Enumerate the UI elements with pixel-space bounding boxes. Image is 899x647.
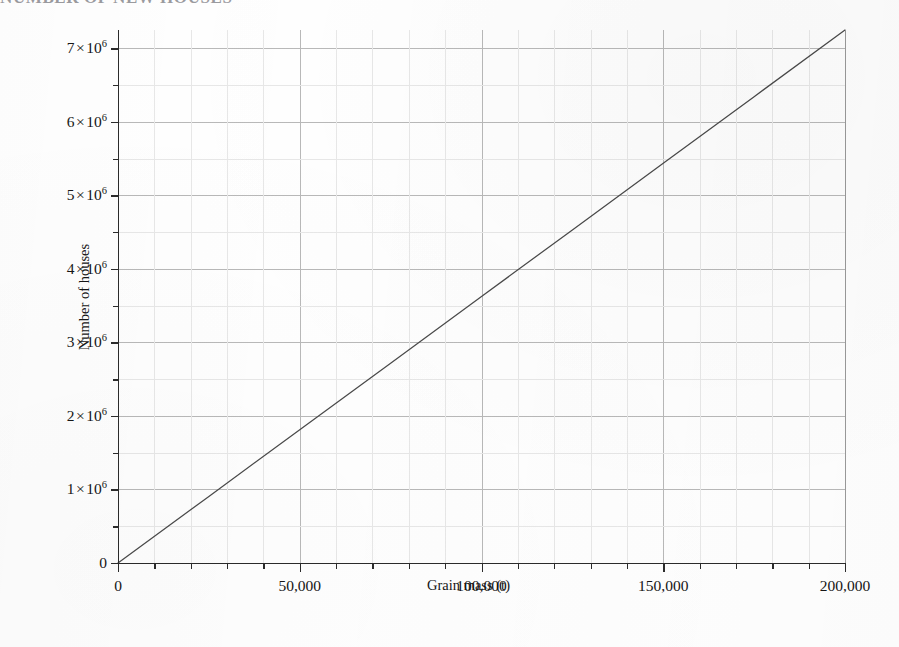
x-axis-tick xyxy=(482,563,483,572)
x-axis-minor-tick xyxy=(154,563,155,569)
y-axis-line xyxy=(118,30,119,563)
y-axis-tick xyxy=(111,122,119,123)
y-axis-tick-label: 6×106 xyxy=(67,113,107,131)
y-axis-minor-tick xyxy=(113,526,119,527)
chart-figure: NUMBER OF NEW HOUSES 01×1062×1063×1064×1… xyxy=(0,0,899,647)
x-axis-minor-tick xyxy=(736,563,737,569)
y-axis-minor-tick xyxy=(113,306,119,307)
x-axis-title-text: Grain mass (t) xyxy=(427,577,510,593)
y-axis-tick-label: 1×106 xyxy=(67,480,107,498)
y-axis-tick-label: 5×106 xyxy=(67,186,107,204)
y-axis-tick xyxy=(111,195,119,196)
x-axis-tick xyxy=(300,563,301,572)
y-axis-tick xyxy=(111,489,119,490)
x-axis-minor-tick xyxy=(263,563,264,569)
x-axis-title: Grain mass (t) xyxy=(0,577,899,594)
plot-area: 01×1062×1063×1064×1065×1066×1067×106 050… xyxy=(118,30,845,563)
x-axis-minor-tick xyxy=(336,563,337,569)
x-axis-tick xyxy=(845,563,846,572)
data-series-line xyxy=(118,30,845,563)
y-axis-tick xyxy=(111,416,119,417)
x-axis-minor-tick xyxy=(591,563,592,569)
x-axis-minor-tick xyxy=(445,563,446,569)
y-axis-tick-label: 7×106 xyxy=(67,39,107,57)
x-axis-minor-tick xyxy=(191,563,192,569)
x-axis-minor-tick xyxy=(700,563,701,569)
y-axis-tick xyxy=(111,269,119,270)
y-axis-minor-tick xyxy=(113,159,119,160)
x-axis-minor-tick xyxy=(809,563,810,569)
x-axis-tick xyxy=(118,563,119,572)
x-axis-minor-tick xyxy=(627,563,628,569)
y-axis-minor-tick xyxy=(113,85,119,86)
x-axis-minor-tick xyxy=(554,563,555,569)
y-axis-title: Number of houses xyxy=(76,243,93,349)
y-axis-minor-tick xyxy=(113,379,119,380)
page-heading: NUMBER OF NEW HOUSES xyxy=(0,0,420,8)
x-axis-minor-tick xyxy=(227,563,228,569)
x-axis-minor-tick xyxy=(772,563,773,569)
x-axis-tick xyxy=(663,563,664,572)
x-axis-minor-tick xyxy=(409,563,410,569)
y-axis-tick xyxy=(111,48,119,49)
y-axis-minor-tick xyxy=(113,232,119,233)
y-axis-tick-label: 0 xyxy=(99,554,107,572)
plot-frame-right xyxy=(845,30,846,563)
y-axis-minor-tick xyxy=(113,453,119,454)
x-axis-minor-tick xyxy=(372,563,373,569)
y-axis-tick-label: 2×106 xyxy=(67,407,107,425)
x-axis-minor-tick xyxy=(518,563,519,569)
y-axis-tick xyxy=(111,342,119,343)
